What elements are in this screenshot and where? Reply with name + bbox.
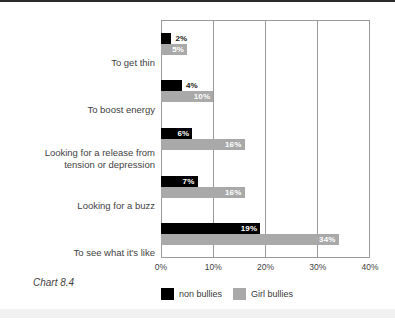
bar-girl-bullies: 10% <box>161 91 213 102</box>
bottom-band <box>0 309 395 318</box>
bar-pair: 7%16% <box>161 176 370 198</box>
bar-value-label: 16% <box>225 188 245 197</box>
bar-girl-bullies: 16% <box>161 139 245 150</box>
category-label: To see what it's like <box>0 247 155 259</box>
top-rule <box>0 0 395 2</box>
bar-non-bullies: 2% <box>161 33 171 44</box>
legend-label: Girl bullies <box>251 289 293 299</box>
category-label: To get thin <box>0 57 155 69</box>
legend: non bullies Girl bullies <box>161 288 370 300</box>
bar-value-label: 16% <box>225 140 245 149</box>
bar-group: 4%10% <box>161 68 370 116</box>
bar-value-label: 4% <box>182 81 198 90</box>
category-label: Looking for a release from tension or de… <box>0 147 155 170</box>
bar-girl-bullies: 16% <box>161 187 245 198</box>
category-label-line: To see what it's like <box>0 247 155 259</box>
bar-pair: 4%10% <box>161 80 370 102</box>
bar-non-bullies: 19% <box>161 223 260 234</box>
legend-swatch-icon <box>161 288 174 300</box>
bar-pair: 6%16% <box>161 128 370 150</box>
x-tick-label: 40% <box>361 262 378 272</box>
legend-swatch-icon <box>233 288 246 300</box>
bar-group: 2%5% <box>161 20 370 68</box>
category-axis: To get thin To boost energy Looking for … <box>0 20 155 258</box>
bar-group: 7%16% <box>161 163 370 211</box>
bar-value-label: 2% <box>171 34 187 43</box>
bar-value-label: 7% <box>183 177 198 186</box>
legend-item-non-bullies: non bullies <box>161 288 222 300</box>
category-label: To boost energy <box>0 104 155 116</box>
bar-group: 19%34% <box>161 210 370 258</box>
category-label-line: To boost energy <box>0 104 155 116</box>
bar-value-label: 10% <box>194 92 214 101</box>
x-tick-label: 30% <box>309 262 326 272</box>
bar-groups: 2%5%4%10%6%16%7%16%19%34% <box>161 20 370 258</box>
bar-value-label: 34% <box>319 235 339 244</box>
bar-non-bullies: 4% <box>161 80 182 91</box>
bar-value-label: 5% <box>172 45 187 54</box>
x-axis-ticks: 0%10%20%30%40% <box>161 262 370 276</box>
bar-pair: 19%34% <box>161 223 370 245</box>
category-label: Looking for a buzz <box>0 200 155 212</box>
category-label-line: Looking for a buzz <box>0 200 155 212</box>
category-label-line: To get thin <box>0 57 155 69</box>
bar-value-label: 6% <box>177 129 192 138</box>
legend-item-girl-bullies: Girl bullies <box>233 288 293 300</box>
bar-value-label: 19% <box>241 224 261 233</box>
x-tick-label: 10% <box>205 262 222 272</box>
x-tick-label: 0% <box>155 262 167 272</box>
category-label-line: tension or depression <box>0 158 155 170</box>
bar-non-bullies: 7% <box>161 176 198 187</box>
bar-group: 6%16% <box>161 115 370 163</box>
x-tick-label: 20% <box>257 262 274 272</box>
bar-pair: 2%5% <box>161 33 370 55</box>
chart-caption: Chart 8.4 <box>33 277 74 288</box>
bar-girl-bullies: 5% <box>161 44 187 55</box>
bar-non-bullies: 6% <box>161 128 192 139</box>
bar-girl-bullies: 34% <box>161 234 339 245</box>
legend-label: non bullies <box>179 289 222 299</box>
category-label-line: Looking for a release from <box>0 147 155 159</box>
